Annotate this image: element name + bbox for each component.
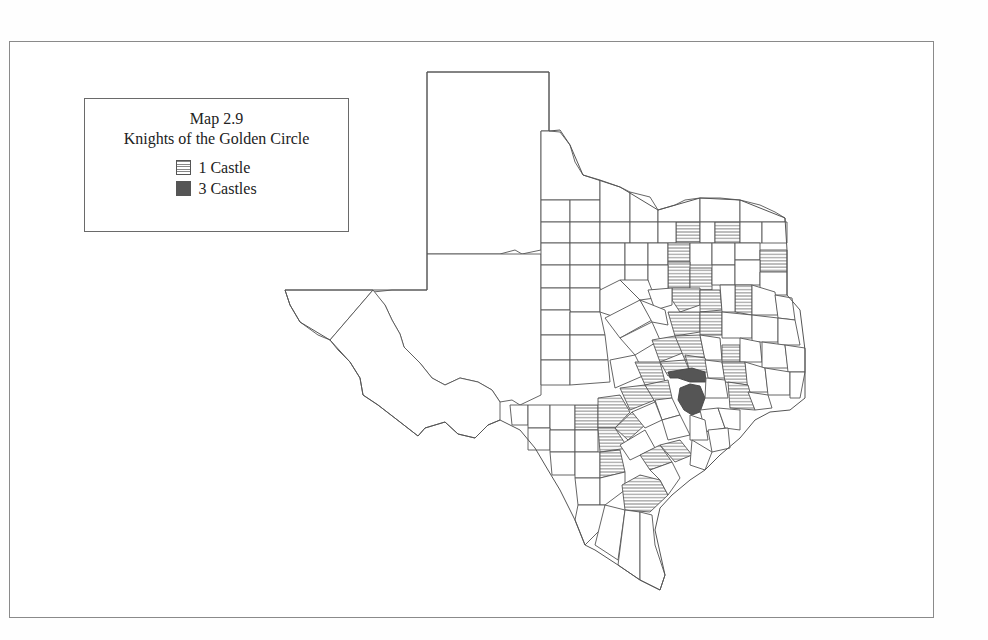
dark-swatch-icon [176,181,191,196]
map-number: Map 2.9 [85,109,348,129]
map-legend: Map 2.9 Knights of the Golden Circle 1 C… [84,98,349,232]
south-counties [510,380,740,590]
legend-label: 1 Castle [198,158,250,178]
map-title: Knights of the Golden Circle [85,129,348,149]
legend-label: 3 Castles [198,179,256,199]
legend-item-1-castle: 1 Castle [176,157,256,178]
texas-county-map [0,0,988,640]
central-counties [541,280,805,415]
hatch-swatch-icon [176,160,191,175]
legend-items: 1 Castle 3 Castles [176,157,256,199]
legend-item-3-castles: 3 Castles [176,178,256,199]
north-counties [541,131,787,295]
